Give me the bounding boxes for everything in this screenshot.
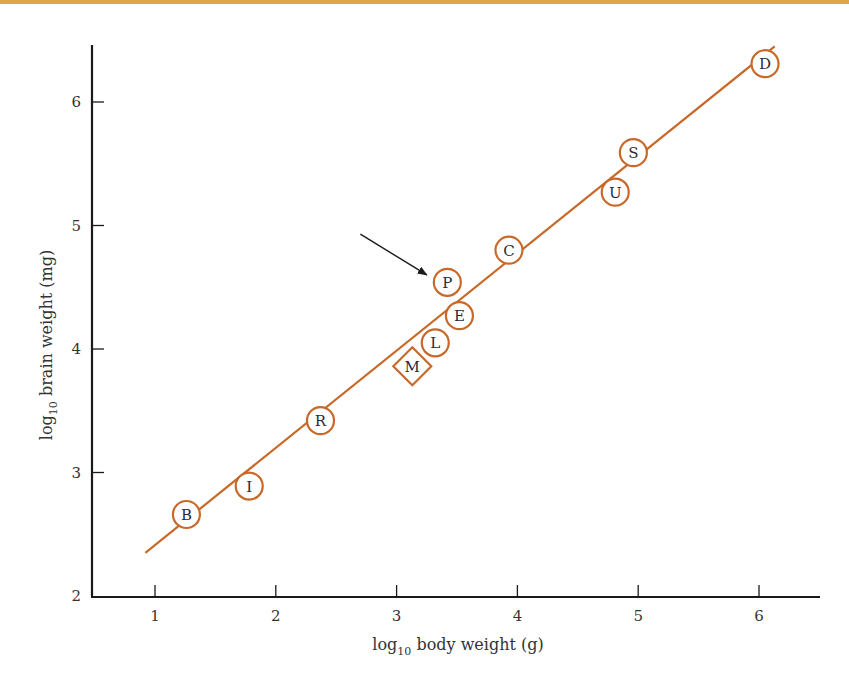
data-point-p: P: [434, 269, 461, 296]
annotation-arrow: [360, 234, 426, 275]
point-label: E: [454, 307, 465, 325]
data-point-r: R: [307, 407, 334, 434]
x-tick-label: 1: [150, 607, 160, 625]
data-point-b: B: [173, 501, 200, 528]
y-axis-label: log10 brain weight (mg): [37, 250, 60, 440]
x-tick-label: 5: [633, 607, 643, 625]
point-label: B: [181, 506, 192, 524]
annotations: [360, 234, 426, 275]
point-label: R: [315, 412, 327, 430]
point-label: P: [442, 274, 452, 292]
point-label: M: [405, 358, 420, 376]
scatter-chart: 12345623456 BIRMLEPCUSD log10 body weigh…: [0, 0, 849, 693]
data-point-s: S: [620, 139, 647, 166]
data-point-u: U: [602, 179, 629, 206]
point-label: S: [628, 144, 638, 162]
x-tick-label: 3: [392, 607, 402, 625]
point-label: I: [246, 478, 252, 496]
x-axis-label: log10 body weight (g): [372, 635, 543, 658]
data-point-e: E: [446, 302, 473, 329]
y-tick-label: 3: [71, 464, 81, 482]
data-point-i: I: [236, 473, 263, 500]
point-label: D: [759, 55, 771, 73]
x-tick-label: 6: [754, 607, 764, 625]
y-tick-label: 2: [71, 587, 81, 605]
data-point-l: L: [422, 329, 449, 356]
x-tick-label: 4: [513, 607, 523, 625]
point-label: L: [430, 334, 440, 352]
data-point-d: D: [752, 50, 779, 77]
y-tick-label: 6: [71, 93, 81, 111]
y-tick-label: 4: [71, 340, 81, 358]
data-point-c: C: [495, 237, 522, 264]
x-tick-label: 2: [271, 607, 281, 625]
y-tick-label: 5: [71, 217, 81, 235]
point-label: U: [609, 184, 622, 202]
point-label: C: [503, 242, 514, 260]
